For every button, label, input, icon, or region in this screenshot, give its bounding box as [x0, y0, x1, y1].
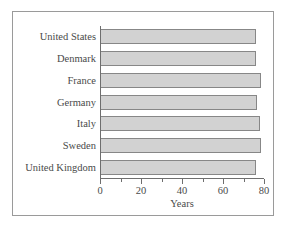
- category-label: Germany: [4, 95, 96, 110]
- bar: [100, 116, 260, 131]
- x-tick-label: 20: [126, 185, 156, 197]
- bar-row: [100, 138, 264, 153]
- x-tick-major: [100, 179, 101, 184]
- bar-row: [100, 29, 264, 44]
- bar: [100, 29, 256, 44]
- plot-area: [100, 26, 264, 178]
- category-label: United States: [4, 29, 96, 44]
- x-tick-major: [182, 179, 183, 184]
- x-tick-label: 40: [167, 185, 197, 197]
- chart-figure: United StatesDenmarkFranceGermanyItalySw…: [0, 0, 286, 234]
- x-axis-title: Years: [100, 198, 264, 209]
- x-tick-label: 60: [208, 185, 238, 197]
- category-label: Denmark: [4, 51, 96, 66]
- bar: [100, 138, 261, 153]
- category-label: France: [4, 73, 96, 88]
- bar-row: [100, 116, 264, 131]
- x-tick-minor: [244, 179, 245, 182]
- bar-row: [100, 73, 264, 88]
- y-axis-line: [100, 26, 101, 179]
- bar: [100, 95, 257, 110]
- x-tick-minor: [203, 179, 204, 182]
- bar: [100, 51, 256, 66]
- x-tick-minor: [162, 179, 163, 182]
- category-label: United Kingdom: [4, 160, 96, 175]
- bar-row: [100, 51, 264, 66]
- bar: [100, 160, 256, 175]
- category-axis-labels: United StatesDenmarkFranceGermanyItalySw…: [4, 26, 96, 178]
- x-tick-minor: [121, 179, 122, 182]
- x-tick-label: 80: [249, 185, 279, 197]
- category-label: Italy: [4, 116, 96, 131]
- category-label: Sweden: [4, 138, 96, 153]
- x-tick-major: [264, 179, 265, 184]
- bar: [100, 73, 261, 88]
- x-tick-major: [223, 179, 224, 184]
- x-tick-label: 0: [85, 185, 115, 197]
- bar-row: [100, 160, 264, 175]
- bar-row: [100, 95, 264, 110]
- x-tick-major: [141, 179, 142, 184]
